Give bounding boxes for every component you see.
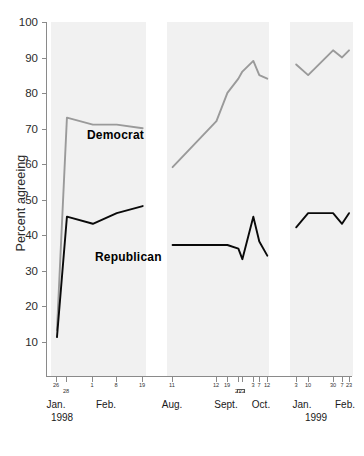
x-ticklabel-panel1-19: 19 bbox=[139, 382, 145, 389]
y-tick-50: 50 bbox=[4, 194, 38, 206]
x-year-panel1: 1998 bbox=[51, 412, 73, 423]
y-tickmark-30 bbox=[42, 271, 47, 272]
x-ticklabel-panel2-11: 11 bbox=[169, 382, 175, 389]
line-republican-panel3 bbox=[296, 213, 349, 227]
x-tickmark-panel1-28 bbox=[66, 377, 67, 382]
y-tickmark-20 bbox=[42, 306, 47, 307]
line-democrat-panel3 bbox=[296, 50, 349, 75]
plot-area: Democrat Republican bbox=[46, 22, 352, 377]
y-tick-40: 40 bbox=[4, 229, 38, 241]
chart-figure: Percent agreeing 100908070605040302010 D… bbox=[0, 0, 364, 456]
x-ticklabel-panel1-28: 28 bbox=[63, 388, 69, 395]
line-republican-panel1 bbox=[57, 206, 143, 337]
x-axis: 26281819Jan.Feb.199811121921223712Aug.Se… bbox=[46, 377, 352, 456]
x-tickmark-panel2-22 bbox=[242, 377, 243, 382]
y-tickmark-70 bbox=[42, 129, 47, 130]
x-ticklabel-panel2-3: 3 bbox=[251, 382, 254, 389]
x-ticklabel-panel3-23: 23 bbox=[346, 382, 352, 389]
x-ticklabel-panel2-12: 12 bbox=[213, 382, 219, 389]
y-tickmark-50 bbox=[42, 200, 47, 201]
line-democrat-panel1 bbox=[57, 118, 143, 330]
x-ticklabel-panel3-3: 3 bbox=[294, 382, 297, 389]
y-tick-100: 100 bbox=[4, 16, 38, 28]
x-month-panel2-oct: Oct. bbox=[252, 399, 270, 410]
y-tick-10: 10 bbox=[4, 336, 38, 348]
x-ticklabel-panel1-8: 8 bbox=[114, 382, 117, 389]
y-tickmark-40 bbox=[42, 235, 47, 236]
y-tick-20: 20 bbox=[4, 300, 38, 312]
x-ticklabel-panel2-7: 7 bbox=[257, 382, 260, 389]
x-ticklabel-panel1-26: 26 bbox=[53, 382, 59, 389]
y-tick-70: 70 bbox=[4, 123, 38, 135]
line-democrat-panel2 bbox=[173, 61, 268, 167]
y-axis-tick-labels: 100908070605040302010 bbox=[0, 0, 38, 456]
x-tick-bracket-panel2 bbox=[237, 389, 245, 393]
x-ticklabel-panel3-10: 10 bbox=[305, 382, 311, 389]
x-month-panel3-feb: Feb. bbox=[335, 399, 355, 410]
x-month-panel1-feb: Feb. bbox=[96, 399, 116, 410]
y-tickmark-100 bbox=[42, 22, 47, 23]
x-ticklabel-panel3-30: 30 bbox=[330, 382, 336, 389]
x-month-panel2-sept: Sept. bbox=[214, 399, 237, 410]
y-tickmark-60 bbox=[42, 164, 47, 165]
x-month-panel3-jan: Jan. bbox=[293, 399, 312, 410]
x-ticklabel-panel1-1: 1 bbox=[90, 382, 93, 389]
y-tick-90: 90 bbox=[4, 52, 38, 64]
series-lines bbox=[47, 22, 352, 376]
y-tickmark-10 bbox=[42, 342, 47, 343]
x-month-panel2-aug: Aug. bbox=[162, 399, 183, 410]
line-republican-panel2 bbox=[173, 217, 268, 259]
y-tick-30: 30 bbox=[4, 265, 38, 277]
series-label-democrat: Democrat bbox=[87, 128, 144, 142]
x-ticklabel-panel2-12: 12 bbox=[264, 382, 270, 389]
x-month-panel1-jan: Jan. bbox=[47, 399, 66, 410]
x-ticklabel-panel3-7: 7 bbox=[340, 382, 343, 389]
y-tickmark-90 bbox=[42, 58, 47, 59]
x-ticklabel-panel2-19: 19 bbox=[224, 382, 230, 389]
y-tick-80: 80 bbox=[4, 87, 38, 99]
y-tickmark-80 bbox=[42, 93, 47, 94]
x-year-panel3: 1999 bbox=[305, 412, 327, 423]
series-label-republican: Republican bbox=[95, 250, 162, 264]
x-tickmark-panel2-21 bbox=[238, 377, 239, 382]
y-tick-60: 60 bbox=[4, 158, 38, 170]
